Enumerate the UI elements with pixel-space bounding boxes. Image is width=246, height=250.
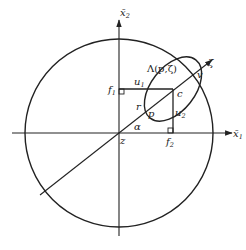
v-label: v (197, 69, 203, 80)
zeta-ray (40, 60, 212, 195)
f1-label: f1 (107, 84, 116, 97)
zeta-label: ζ (208, 57, 214, 68)
ellipse-label: Λ(p,ζ) (146, 63, 177, 74)
u1-label: u1 (134, 76, 145, 89)
c-label: c (177, 88, 183, 99)
f2-label: f2 (165, 136, 174, 149)
p-label: p (148, 108, 155, 119)
x2-axis-label: x̄2 (120, 7, 130, 20)
geometry-diagram: x̄2 x̄1 ζ v Λ(p,ζ) f1 u1 c u2 r p α z f2 (0, 0, 246, 250)
alpha-label: α (134, 121, 141, 132)
z-label: z (119, 135, 126, 146)
f2-right-angle-marker (168, 128, 173, 133)
r-label: r (136, 101, 142, 112)
f1-right-angle-marker (119, 89, 124, 94)
x1-axis-label: x̄1 (233, 128, 243, 141)
